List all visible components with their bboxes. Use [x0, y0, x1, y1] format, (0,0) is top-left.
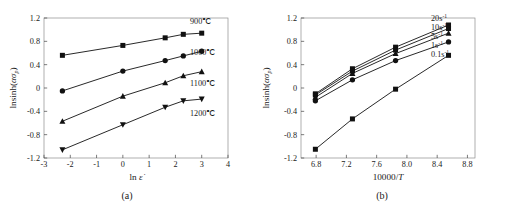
x-tick-label: 8.4: [432, 160, 442, 169]
x-tick-label: 1: [147, 160, 151, 169]
y-tick-label: 0.4: [30, 61, 40, 70]
data-point: [120, 43, 125, 48]
x-axis-title: 10000/T: [373, 172, 405, 182]
data-point: [163, 35, 168, 40]
series-label-3: 1200℃: [190, 109, 215, 118]
y-axis-title: lnsinh(ασp): [261, 68, 272, 109]
data-point: [199, 31, 204, 36]
y-tick-label: 0.8: [287, 37, 297, 46]
x-tick-label: 0: [121, 160, 125, 169]
y-tick-label: -0.4: [27, 107, 40, 116]
data-point: [59, 118, 65, 124]
y-tick-label: -1.2: [27, 154, 40, 163]
x-tick-label: 3: [200, 160, 204, 169]
axis-frame: [301, 18, 475, 158]
data-point: [350, 77, 355, 82]
series-label-3: 1s-1: [431, 40, 443, 50]
data-point: [60, 88, 65, 93]
x-tick-label: 8.0: [402, 160, 412, 169]
x-tick-label: 6.8: [311, 160, 321, 169]
x-axis-ticks: -3-2-101234: [41, 155, 230, 169]
data-point: [59, 147, 65, 153]
data-point: [350, 116, 355, 121]
x-tick-label: 7.2: [341, 160, 351, 169]
x-tick-label: -2: [67, 160, 74, 169]
chart-a-canvas: -3-2-101234-1.2-0.8-0.400.40.81.2lnsinh(…: [0, 0, 254, 207]
chart-b-canvas: 6.87.27.68.08.48.8-1.2-0.8-0.400.40.81.2…: [255, 0, 509, 207]
y-tick-label: 1.2: [30, 14, 40, 23]
panel-a-caption: (a): [0, 190, 254, 201]
y-tick-label: 0.4: [287, 61, 297, 70]
x-tick-label: -1: [93, 160, 100, 169]
data-point: [181, 32, 186, 37]
y-tick-label: 0.8: [30, 37, 40, 46]
y-tick-label: -0.8: [284, 131, 297, 140]
y-axis-title: lnsinh(ασp): [8, 68, 19, 109]
data-point: [313, 98, 318, 103]
series-label-2: 1100℃: [190, 79, 215, 88]
data-point: [163, 58, 168, 63]
series-label-0: 900℃: [190, 17, 211, 26]
y-tick-label: -1.2: [284, 154, 297, 163]
x-tick-label: 7.6: [372, 160, 382, 169]
series-label-1: 1000℃: [190, 48, 215, 57]
x-axis-title: ln ε̇: [129, 172, 145, 182]
panel-b-caption: (b): [255, 190, 509, 201]
x-tick-label: 4: [226, 160, 230, 169]
series-1: [60, 49, 205, 94]
x-tick-label: 2: [173, 160, 177, 169]
x-tick-label: -3: [41, 160, 48, 169]
data-point: [393, 87, 398, 92]
series-3: [59, 97, 204, 153]
x-tick-label: 8.8: [462, 160, 472, 169]
series-2: [59, 69, 204, 124]
data-point: [120, 68, 125, 73]
x-axis-ticks: 6.87.27.68.08.48.8: [311, 155, 473, 169]
data-point: [60, 53, 65, 58]
data-point: [162, 105, 168, 111]
y-tick-label: 1.2: [287, 14, 297, 23]
panel-b: 6.87.27.68.08.48.8-1.2-0.8-0.400.40.81.2…: [255, 0, 509, 207]
data-point: [313, 147, 318, 152]
data-point: [162, 80, 168, 86]
figure-container: -3-2-101234-1.2-0.8-0.400.40.81.2lnsinh(…: [0, 0, 509, 207]
y-tick-label: 0: [293, 84, 297, 93]
data-point: [120, 122, 126, 128]
data-point: [181, 53, 186, 58]
y-tick-label: -0.4: [284, 107, 297, 116]
y-tick-label: 0: [36, 84, 40, 93]
panel-a: -3-2-101234-1.2-0.8-0.400.40.81.2lnsinh(…: [0, 0, 254, 207]
data-point: [199, 69, 205, 75]
data-point: [393, 58, 398, 63]
series-4: [313, 53, 451, 152]
y-tick-label: -0.8: [27, 131, 40, 140]
data-point: [446, 39, 451, 44]
